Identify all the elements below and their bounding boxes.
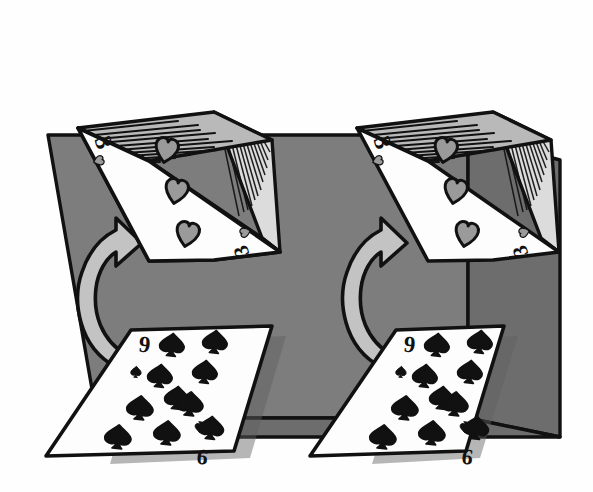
card-scene-svg: 3 3 9	[0, 0, 593, 492]
right-table-card-rank-top: 9	[403, 332, 417, 358]
illustration-canvas: 3 3 9	[0, 0, 593, 492]
left-table-card: 9 9	[46, 326, 286, 470]
left-table-card-rank-top: 9	[138, 332, 152, 358]
